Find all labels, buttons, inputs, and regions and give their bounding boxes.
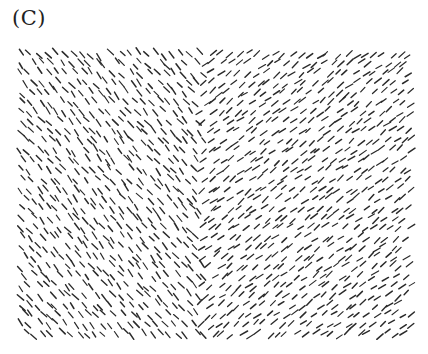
line-segment	[254, 330, 260, 335]
line-segment	[133, 257, 138, 262]
line-segment	[338, 109, 344, 113]
line-segment	[387, 226, 393, 230]
line-segment	[40, 234, 45, 240]
line-segment	[148, 69, 152, 73]
line-segment	[281, 216, 287, 221]
line-segment	[354, 193, 360, 198]
line-segment	[104, 96, 109, 103]
line-segment	[182, 262, 187, 267]
line-segment	[227, 108, 232, 113]
line-segment	[245, 167, 252, 172]
line-segment	[339, 256, 345, 261]
line-segment	[18, 69, 21, 74]
line-segment	[251, 304, 256, 309]
line-segment	[112, 79, 116, 84]
line-segment	[63, 319, 67, 325]
line-segment	[310, 141, 315, 146]
line-segment	[249, 118, 255, 124]
line-segment	[285, 198, 290, 201]
line-segment	[107, 49, 113, 55]
line-segment	[75, 130, 79, 136]
line-segment	[94, 84, 99, 89]
line-segment	[92, 97, 97, 103]
line-segment	[178, 107, 182, 112]
line-segment	[155, 247, 160, 253]
line-segment	[156, 169, 160, 176]
line-segment	[88, 139, 92, 143]
line-segment	[66, 149, 70, 155]
line-segment	[371, 286, 376, 289]
line-segment	[76, 118, 80, 124]
line-segment	[282, 238, 287, 242]
line-segment	[352, 267, 358, 271]
line-segment	[24, 136, 29, 142]
line-segment	[91, 204, 95, 209]
line-segment	[187, 289, 191, 296]
line-segment	[249, 82, 255, 87]
line-segment	[137, 90, 142, 96]
line-segment	[209, 326, 214, 330]
line-segment	[165, 184, 169, 191]
line-segment	[142, 129, 147, 134]
line-segment	[250, 100, 256, 103]
line-segment	[283, 100, 290, 104]
line-segment	[175, 262, 180, 267]
line-segment	[231, 80, 237, 84]
line-segment	[94, 218, 97, 224]
line-segment	[378, 53, 383, 57]
line-segment	[47, 167, 51, 174]
line-segment	[369, 111, 374, 115]
line-segment	[17, 148, 21, 153]
line-segment	[163, 138, 168, 143]
line-segment	[87, 252, 91, 258]
line-segment	[30, 246, 34, 251]
line-segment	[221, 60, 226, 64]
line-segment	[234, 146, 239, 150]
line-segment	[98, 305, 103, 310]
line-segment	[82, 293, 86, 298]
line-segment	[168, 195, 172, 200]
line-segment	[299, 267, 304, 271]
line-segment	[328, 72, 334, 78]
line-segment	[176, 334, 181, 338]
line-segment	[192, 320, 196, 325]
line-segment	[311, 109, 316, 114]
line-segment	[26, 228, 32, 233]
line-segment	[329, 92, 334, 97]
line-segment	[371, 225, 377, 229]
line-segment	[236, 206, 241, 210]
line-segment	[90, 112, 95, 118]
line-segment	[176, 137, 181, 142]
line-segment	[236, 178, 243, 182]
line-segment	[344, 283, 351, 287]
line-segment	[109, 261, 114, 267]
line-segment	[166, 310, 171, 315]
line-segment	[174, 223, 178, 230]
line-segment	[38, 319, 42, 324]
line-segment	[193, 189, 197, 194]
line-segment	[20, 93, 25, 97]
line-segment	[360, 282, 366, 286]
line-segment	[408, 224, 415, 228]
line-segment	[383, 70, 388, 74]
line-segment	[328, 324, 333, 327]
line-segment	[354, 55, 361, 59]
line-segment	[107, 151, 110, 157]
line-segment	[376, 179, 382, 183]
line-segment	[47, 314, 53, 320]
line-segment	[129, 151, 134, 156]
line-segment	[56, 139, 60, 146]
line-segment	[80, 52, 85, 58]
line-segment	[321, 292, 326, 297]
line-segment	[136, 48, 140, 54]
line-segment	[220, 111, 224, 116]
line-segment	[375, 199, 380, 202]
line-segment	[366, 176, 372, 179]
line-segment	[250, 177, 256, 181]
line-segment	[65, 136, 69, 142]
line-segment	[47, 203, 51, 208]
line-segment	[174, 99, 179, 105]
line-segment	[363, 238, 369, 242]
line-segment	[239, 136, 244, 140]
line-segment	[31, 334, 37, 339]
